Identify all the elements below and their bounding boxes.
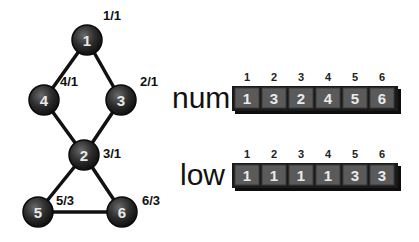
cell-value: 1: [243, 167, 251, 184]
node-label: 2: [80, 147, 88, 164]
cell-value: 2: [297, 90, 305, 107]
cell-index: 3: [298, 71, 304, 83]
cell-value: 4: [324, 90, 333, 107]
graph-edges: [38, 40, 122, 212]
node-label: 1: [83, 32, 91, 49]
cell-value: 1: [324, 167, 332, 184]
array-title: num: [172, 81, 230, 114]
cell-index: 6: [379, 148, 385, 160]
node-3: 32/1: [106, 74, 158, 115]
node-label: 6: [118, 204, 126, 221]
cell-value: 1: [297, 167, 305, 184]
node-1: 11/1: [72, 8, 121, 55]
node-annotation: 3/1: [103, 146, 121, 161]
cell-index: 2: [271, 71, 277, 83]
node-label: 3: [117, 92, 125, 109]
node-annotation: 5/3: [56, 193, 74, 208]
cell-index: 4: [325, 148, 332, 160]
cell-index: 1: [244, 148, 250, 160]
cell-index: 2: [271, 148, 277, 160]
node-annotation: 6/3: [142, 193, 160, 208]
cell-index: 1: [244, 71, 250, 83]
node-label: 4: [40, 92, 49, 109]
cell-value: 6: [378, 90, 386, 107]
array-num: num113223445566: [172, 71, 401, 114]
cell-value: 3: [378, 167, 386, 184]
array-low: low111213143536: [180, 148, 401, 191]
node-2: 23/1: [69, 140, 121, 170]
cell-index: 5: [352, 148, 358, 160]
cell-index: 5: [352, 71, 358, 83]
cell-index: 6: [379, 71, 385, 83]
node-label: 5: [34, 204, 42, 221]
cell-value: 3: [351, 167, 359, 184]
arrays-group: num113223445566low111213143536: [172, 71, 401, 191]
node-annotation: 1/1: [103, 8, 121, 23]
node-6: 66/3: [107, 193, 160, 227]
cell-value: 3: [270, 90, 278, 107]
node-annotation: 2/1: [140, 74, 158, 89]
cell-value: 1: [243, 90, 251, 107]
array-title: low: [180, 158, 225, 191]
node-annotation: 4/1: [60, 74, 78, 89]
graph-and-arrays-diagram: 11/144/132/123/155/366/3 num113223445566…: [0, 0, 419, 242]
cell-value: 1: [270, 167, 278, 184]
cell-value: 5: [351, 90, 359, 107]
graph-nodes: 11/144/132/123/155/366/3: [23, 8, 160, 227]
cell-index: 4: [325, 71, 332, 83]
cell-index: 3: [298, 148, 304, 160]
node-4: 44/1: [29, 74, 78, 115]
